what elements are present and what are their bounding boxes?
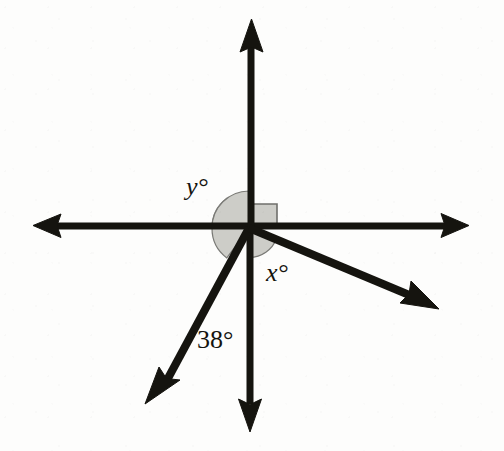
ray-right (249, 214, 469, 238)
angle-diagram (0, 0, 504, 451)
ray-down-left (145, 228, 249, 404)
angle-label-y: y° (186, 174, 208, 200)
angle-label-x: x° (266, 260, 288, 286)
diagram-canvas: y° x° 38° (0, 0, 504, 451)
ray-down (239, 228, 262, 432)
angle-sector-y-upper (212, 191, 249, 228)
angle-label-38: 38° (197, 327, 233, 353)
